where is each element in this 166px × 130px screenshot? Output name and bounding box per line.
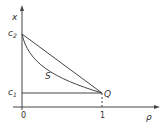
c2-label: c2 [8,28,17,39]
y-axis-label: x [11,12,18,22]
diagram-canvas: x ρ c2 c1 Q S 0 1 [0,0,166,130]
s-label: S [45,71,51,81]
q-label: Q [104,89,111,99]
c1-label: c1 [8,87,17,98]
diagram-svg: x ρ c2 c1 Q S 0 1 [0,0,166,130]
x-tick-1: 1 [100,111,105,120]
x-axis-arrow-icon [154,105,160,109]
y-axis-arrow-icon [20,5,24,11]
c2-q-line [22,34,102,93]
x-tick-0: 0 [21,111,26,120]
x-axis-label: ρ [146,112,152,122]
